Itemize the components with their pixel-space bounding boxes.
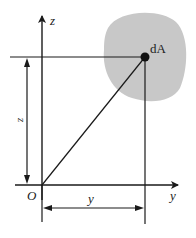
- radius-line: [42, 57, 145, 185]
- y-dimension-arrowhead-left: [43, 205, 52, 211]
- y-dimension-arrowhead-right: [135, 205, 144, 211]
- z-dimension-label: z: [16, 117, 28, 123]
- z-dimension-arrowhead-top: [24, 58, 30, 67]
- y-dimension-label: y: [86, 191, 94, 206]
- z-dimension-arrowhead-bottom: [24, 175, 30, 184]
- area-element-point: [141, 53, 150, 62]
- z-axis-label: z: [49, 13, 55, 28]
- moment-of-area-diagram: z y O dA z y: [0, 0, 196, 238]
- origin-label: O: [27, 188, 37, 203]
- area-element-label: dA: [150, 41, 167, 56]
- y-axis-label: y: [168, 188, 176, 203]
